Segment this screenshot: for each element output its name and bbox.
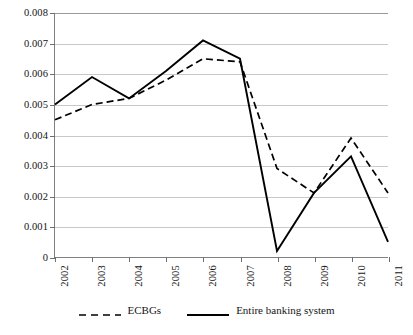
legend-item: ECBGs — [79, 305, 162, 316]
plot-area: 00.0010.0020.0030.0040.0050.0060.0070.00… — [54, 13, 388, 258]
legend-item: Entire banking system — [187, 305, 334, 316]
series-line — [55, 59, 388, 193]
legend-line-swatch — [79, 306, 121, 316]
y-axis-tick-label: 0.007 — [24, 38, 48, 49]
x-axis-tick — [278, 257, 279, 262]
x-axis-tick-label: 2010 — [357, 265, 368, 287]
x-axis-tick-label: 2004 — [134, 265, 145, 287]
y-axis-tick-label: 0.002 — [24, 192, 48, 203]
y-axis-tick-label: 0 — [43, 253, 48, 264]
y-axis-tick-label: 0.005 — [24, 100, 48, 111]
legend-item-label: ECBGs — [128, 305, 162, 316]
y-axis-tick-label: 0.004 — [24, 130, 48, 141]
x-axis-tick — [203, 257, 204, 262]
x-axis-tick-label: 2003 — [97, 265, 108, 287]
line-chart-figure: 00.0010.0020.0030.0040.0050.0060.0070.00… — [0, 0, 413, 335]
y-axis-tick-label: 0.008 — [24, 8, 48, 19]
x-axis-tick — [129, 257, 130, 262]
x-axis-tick-label: 2009 — [320, 265, 331, 287]
x-axis-tick — [55, 257, 56, 262]
x-axis-tick-label: 2007 — [246, 265, 257, 287]
x-axis-tick-label: 2006 — [208, 265, 219, 287]
legend-item-label: Entire banking system — [236, 305, 334, 316]
data-series-lines — [55, 13, 388, 257]
chart-legend: ECBGsEntire banking system — [0, 305, 413, 316]
legend-line-swatch — [187, 306, 229, 316]
series-line — [55, 40, 388, 250]
x-axis-tick — [315, 257, 316, 262]
x-axis-tick — [389, 257, 390, 262]
x-axis-tick-label: 2002 — [60, 265, 71, 287]
x-axis-tick — [352, 257, 353, 262]
x-axis-tick — [92, 257, 93, 262]
x-axis-tick-label: 2008 — [283, 265, 294, 287]
x-axis-tick — [241, 257, 242, 262]
x-axis-tick-label: 2011 — [394, 265, 405, 286]
y-axis-tick-label: 0.003 — [24, 161, 48, 172]
y-axis-tick-label: 0.001 — [24, 222, 48, 233]
x-axis-tick-label: 2005 — [171, 265, 182, 287]
y-axis-tick-label: 0.006 — [24, 69, 48, 80]
x-axis-tick — [166, 257, 167, 262]
